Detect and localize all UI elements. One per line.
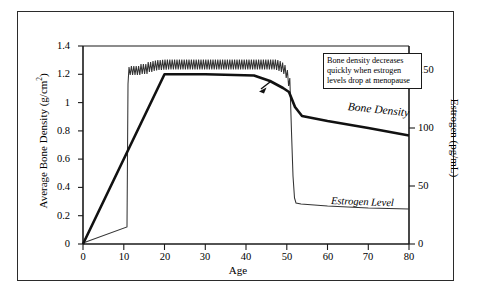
y-axis-right-ticks [409, 70, 415, 244]
y-axis-right-title: Estrogen (pg/mL) [449, 53, 461, 223]
x-tick-30: 30 [190, 251, 220, 262]
y-axis-left-title-superscript: 2 [35, 77, 44, 81]
y-right-tick-150: 150 [418, 64, 450, 75]
y-right-tick-100: 100 [418, 122, 450, 133]
x-tick-40: 40 [231, 251, 261, 262]
x-tick-60: 60 [313, 251, 343, 262]
x-tick-50: 50 [272, 251, 302, 262]
annotation-line-2: quickly when estrogen [327, 66, 418, 76]
y-right-tick-0: 0 [418, 238, 450, 249]
y-axis-left-title: Average Bone Density (g/cm2) [35, 51, 49, 231]
x-tick-80: 80 [394, 251, 424, 262]
figure-root: 1.4 1.2 1 0.8 0.6 0.4 0.2 0 150 100 50 0… [0, 0, 479, 298]
y-axis-left-title-tail: ) [37, 73, 49, 77]
bone-density-curve [83, 74, 409, 244]
annotation-arrow [259, 82, 270, 94]
estrogen-level-series-label: Estrogen Level [331, 195, 394, 208]
y-left-tick-0: 0 [38, 238, 70, 249]
y-right-tick-50: 50 [418, 180, 450, 191]
x-axis-title: Age [178, 264, 298, 276]
y-left-tick-1-4: 1.4 [38, 40, 70, 51]
y-axis-left-title-text: Average Bone Density (g/cm [37, 81, 49, 209]
annotation-line-3: levels drop at menopause [327, 76, 418, 86]
annotation-line-1: Bone density decreases [327, 56, 418, 66]
x-axis-ticks [83, 244, 409, 250]
x-tick-0: 0 [68, 251, 98, 262]
x-tick-70: 70 [353, 251, 383, 262]
x-tick-20: 20 [150, 251, 180, 262]
figure-frame: 1.4 1.2 1 0.8 0.6 0.4 0.2 0 150 100 50 0… [17, 11, 454, 281]
menopause-annotation-box: Bone density decreases quickly when estr… [323, 53, 422, 89]
x-tick-10: 10 [109, 251, 139, 262]
